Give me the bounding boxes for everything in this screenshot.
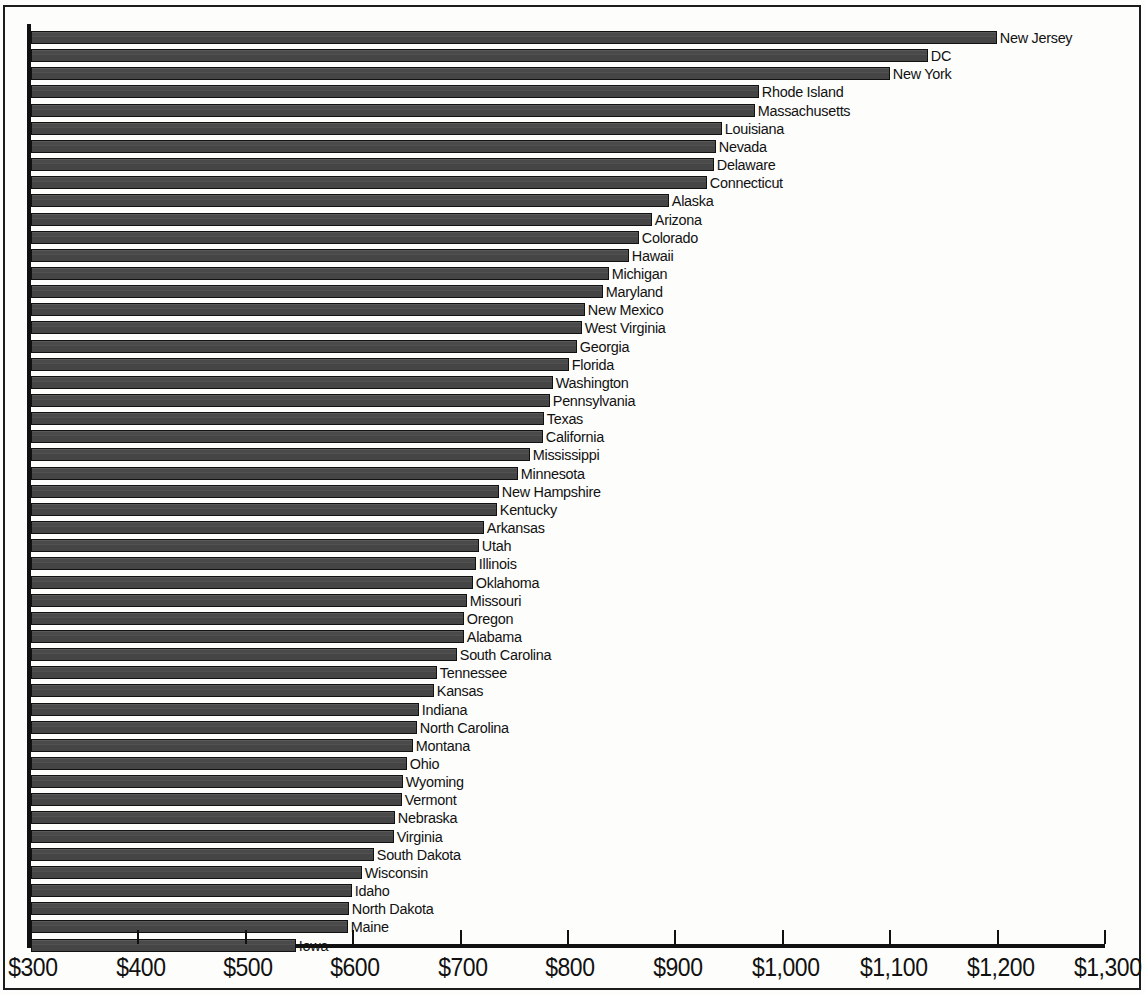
- bar-missouri: [31, 594, 467, 607]
- bar-label: Florida: [569, 355, 614, 374]
- bar-vermont: [31, 793, 402, 806]
- bar-label: Maryland: [603, 282, 663, 301]
- bar-north-dakota: [31, 902, 349, 915]
- table-row: Indiana: [31, 703, 1105, 716]
- x-axis-ticks: [0, 930, 1145, 948]
- bar-connecticut: [31, 176, 707, 189]
- bar-hawaii: [31, 249, 629, 262]
- x-axis-tick-label: $700: [438, 952, 487, 982]
- bar-delaware: [31, 158, 714, 171]
- bar-label: Mississippi: [530, 445, 599, 464]
- table-row: New York: [31, 67, 1105, 80]
- table-row: South Carolina: [31, 648, 1105, 661]
- table-row: Missouri: [31, 594, 1105, 607]
- bar-label: Wisconsin: [362, 863, 428, 882]
- x-axis-tick-label: $400: [116, 952, 165, 982]
- bar-label: Montana: [413, 736, 470, 755]
- table-row: Delaware: [31, 158, 1105, 171]
- table-row: Utah: [31, 539, 1105, 552]
- bar-arkansas: [31, 521, 484, 534]
- bar-new-york: [31, 67, 890, 80]
- bar-label: Tennessee: [437, 663, 507, 682]
- bar-indiana: [31, 703, 419, 716]
- x-axis-tick-label: $600: [331, 952, 380, 982]
- bar-label: Nebraska: [395, 808, 457, 827]
- table-row: Arkansas: [31, 521, 1105, 534]
- bar-nevada: [31, 140, 716, 153]
- table-row: Texas: [31, 412, 1105, 425]
- bar-label: Wyoming: [403, 772, 464, 791]
- bar-georgia: [31, 340, 577, 353]
- table-row: Hawaii: [31, 249, 1105, 262]
- x-axis-tick-label: $800: [545, 952, 594, 982]
- bar-label: Georgia: [577, 337, 629, 356]
- x-axis-tick-label: $1,000: [752, 952, 820, 982]
- table-row: New Jersey: [31, 31, 1105, 44]
- bar-west-virginia: [31, 321, 582, 334]
- bar-new-jersey: [31, 31, 997, 44]
- bar-label: Alaska: [669, 191, 713, 210]
- bar-label: West Virginia: [582, 318, 666, 337]
- bar-louisiana: [31, 122, 722, 135]
- table-row: New Mexico: [31, 303, 1105, 316]
- bar-oregon: [31, 612, 464, 625]
- bar-label: Oklahoma: [473, 573, 539, 592]
- bar-label: New Hampshire: [499, 482, 601, 501]
- table-row: Massachusetts: [31, 104, 1105, 117]
- bar-california: [31, 430, 543, 443]
- bar-label: New Jersey: [997, 28, 1072, 47]
- bar-minnesota: [31, 467, 518, 480]
- bar-label: Illinois: [476, 554, 517, 573]
- bar-massachusetts: [31, 104, 755, 117]
- x-axis-tick-label: $1,300: [1074, 952, 1142, 982]
- bar-label: Ohio: [407, 754, 439, 773]
- bar-label: Rhode Island: [759, 82, 843, 101]
- bar-label: New Mexico: [585, 300, 664, 319]
- x-axis-tick: [567, 930, 569, 944]
- bar-texas: [31, 412, 544, 425]
- bar-label: Massachusetts: [755, 101, 850, 120]
- bar-rows: New JerseyDCNew YorkRhode IslandMassachu…: [0, 0, 1145, 948]
- bar-utah: [31, 539, 479, 552]
- bar-label: Alabama: [464, 627, 522, 646]
- table-row: Georgia: [31, 340, 1105, 353]
- bar-virginia: [31, 830, 394, 843]
- table-row: Pennsylvania: [31, 394, 1105, 407]
- table-row: Maryland: [31, 285, 1105, 298]
- bar-label: California: [543, 427, 604, 446]
- bar-label: Utah: [479, 536, 511, 555]
- bar-washington: [31, 376, 553, 389]
- bar-label: New York: [890, 64, 951, 83]
- table-row: Vermont: [31, 793, 1105, 806]
- bar-maryland: [31, 285, 603, 298]
- table-row: Arizona: [31, 213, 1105, 226]
- table-row: Oregon: [31, 612, 1105, 625]
- bar-label: Missouri: [467, 591, 521, 610]
- bar-montana: [31, 739, 413, 752]
- bar-new-mexico: [31, 303, 585, 316]
- bar-tennessee: [31, 666, 437, 679]
- table-row: North Dakota: [31, 902, 1105, 915]
- plot-area: New JerseyDCNew YorkRhode IslandMassachu…: [0, 0, 1145, 948]
- table-row: Oklahoma: [31, 576, 1105, 589]
- bar-label: Vermont: [402, 790, 457, 809]
- bar-south-carolina: [31, 648, 457, 661]
- table-row: Virginia: [31, 830, 1105, 843]
- table-row: Nebraska: [31, 811, 1105, 824]
- table-row: Tennessee: [31, 666, 1105, 679]
- table-row: West Virginia: [31, 321, 1105, 334]
- bar-oklahoma: [31, 576, 473, 589]
- x-axis-tick: [674, 930, 676, 944]
- bar-new-hampshire: [31, 485, 499, 498]
- bar-label: Idaho: [352, 881, 389, 900]
- bar-label: South Carolina: [457, 645, 551, 664]
- table-row: Florida: [31, 358, 1105, 371]
- bar-mississippi: [31, 448, 530, 461]
- bar-label: Indiana: [419, 700, 467, 719]
- bar-alaska: [31, 194, 669, 207]
- table-row: Kentucky: [31, 503, 1105, 516]
- x-axis-tick: [460, 930, 462, 944]
- table-row: Connecticut: [31, 176, 1105, 189]
- bar-kentucky: [31, 503, 497, 516]
- table-row: Mississippi: [31, 448, 1105, 461]
